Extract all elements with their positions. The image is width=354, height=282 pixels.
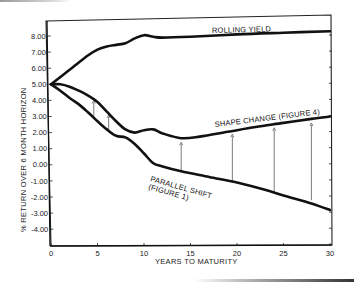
y-tick-label: -4.00 — [31, 225, 48, 234]
y-tick-label: -1.00 — [31, 177, 48, 186]
y-axis-title: % RETURN OVER 6 MONTH HORIZON — [19, 87, 28, 232]
x-axis-line — [50, 245, 332, 246]
y-tick-label: 3.00 — [32, 112, 47, 121]
plot-frame — [46, 15, 332, 246]
y-tick-label: 4.00 — [32, 96, 47, 105]
x-tick-label: 30 — [326, 249, 334, 258]
x-tick-label: 0 — [49, 249, 53, 258]
x-tick-label: 5 — [95, 249, 99, 258]
y-tick-label: 0.00 — [33, 160, 48, 169]
series-lines — [51, 31, 330, 210]
y-tick-label: 1.00 — [33, 144, 48, 153]
y-tick-label: 7.00 — [31, 48, 46, 57]
y-tick-label: -2.00 — [31, 193, 48, 202]
return-chart: 8.007.006.005.004.003.002.001.000.00-1.0… — [0, 0, 354, 282]
series-rolling-yield — [51, 31, 330, 84]
x-axis-title: YEARS TO MATURITY — [155, 257, 238, 266]
y-tick-label: 2.00 — [32, 128, 47, 137]
y-axis: 8.007.006.005.004.003.002.001.000.00-1.0… — [31, 32, 332, 234]
label-rolling-yield: ROLLING YIELD — [212, 24, 272, 35]
plot-border — [46, 15, 332, 246]
y-tick-label: 5.00 — [32, 80, 47, 89]
y-tick-label: 6.00 — [32, 64, 47, 73]
x-tick-label: 10 — [140, 249, 148, 258]
y-tick-label: 8.00 — [31, 32, 46, 41]
y-tick-label: -3.00 — [31, 209, 48, 218]
x-tick-label: 25 — [279, 249, 287, 258]
